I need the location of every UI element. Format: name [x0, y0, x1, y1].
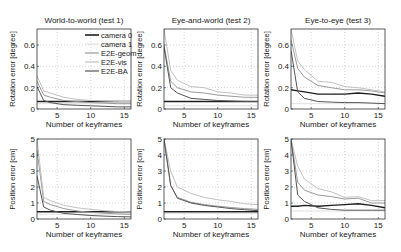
x-axis-label: Number of keyframes	[300, 230, 376, 239]
figure: 5101500.20.40.6Number of keyframesRotati…	[0, 0, 401, 252]
x-tick-label: 5	[182, 111, 187, 120]
y-tick-label: 2	[158, 183, 163, 192]
x-tick-label: 10	[213, 111, 222, 120]
subplot-3: 5101500.20.40.6Number of keyframesRotati…	[262, 16, 385, 129]
subplot-4: 51015012345Number of keyframesPosition e…	[8, 135, 131, 239]
x-tick-label: 5	[182, 221, 187, 230]
y-tick-label: 0	[31, 105, 36, 114]
y-tick-label: 0	[285, 105, 290, 114]
y-axis-label: Rotation error [degree]	[135, 31, 144, 106]
legend-label: E2E-BA	[101, 67, 128, 76]
x-tick-label: 15	[247, 221, 256, 230]
x-tick-label: 15	[247, 111, 256, 120]
y-tick-label: 4	[31, 151, 36, 160]
plot-area	[164, 139, 258, 219]
subplot-title: World-to-world (test 1)	[45, 16, 124, 25]
y-axis-label: Position error [cm]	[135, 149, 144, 210]
x-axis-label: Number of keyframes	[173, 120, 249, 129]
y-tick-label: 3	[285, 167, 290, 176]
y-tick-label: 5	[158, 135, 163, 144]
x-tick-label: 5	[55, 111, 60, 120]
x-tick-label: 5	[309, 111, 314, 120]
x-axis-label: Number of keyframes	[173, 230, 249, 239]
subplot-2: 5101500.20.40.6Number of keyframesRotati…	[135, 16, 258, 129]
subplot-1: 5101500.20.40.6Number of keyframesRotati…	[8, 16, 136, 129]
y-tick-label: 0.2	[24, 84, 36, 93]
x-axis-label: Number of keyframes	[300, 120, 376, 129]
legend-label: camera 1	[101, 40, 132, 49]
y-tick-label: 5	[31, 135, 36, 144]
x-axis-label: Number of keyframes	[46, 120, 122, 129]
y-tick-label: 0	[158, 105, 163, 114]
x-tick-label: 5	[309, 221, 314, 230]
x-tick-label: 15	[120, 221, 129, 230]
x-tick-label: 15	[120, 111, 129, 120]
y-tick-label: 4	[158, 151, 163, 160]
plot-area	[37, 139, 131, 219]
legend-label: E2E-geom	[101, 49, 136, 58]
y-tick-label: 0	[158, 215, 163, 224]
y-tick-label: 0.6	[278, 41, 290, 50]
x-tick-label: 10	[86, 111, 95, 120]
x-tick-label: 5	[55, 221, 60, 230]
y-axis-label: Position error [cm]	[8, 149, 17, 210]
y-tick-label: 0.2	[151, 84, 163, 93]
x-tick-label: 10	[340, 221, 349, 230]
subplot-6: 51015012345Number of keyframesPosition e…	[262, 135, 385, 239]
y-tick-label: 1	[158, 199, 163, 208]
y-tick-label: 2	[31, 183, 36, 192]
x-tick-label: 10	[86, 221, 95, 230]
y-tick-label: 0.4	[278, 62, 290, 71]
x-tick-label: 10	[340, 111, 349, 120]
y-tick-label: 0.6	[24, 41, 36, 50]
y-tick-label: 3	[158, 167, 163, 176]
y-tick-label: 4	[285, 151, 290, 160]
y-tick-label: 0.4	[24, 62, 36, 71]
y-tick-label: 5	[285, 135, 290, 144]
y-axis-label: Rotation error [degree]	[8, 31, 17, 106]
legend-label: E2E-vis	[101, 58, 127, 67]
y-axis-label: Rotation error [degree]	[262, 31, 271, 106]
y-tick-label: 1	[31, 199, 36, 208]
subplot-5: 51015012345Number of keyframesPosition e…	[135, 135, 258, 239]
y-tick-label: 0.2	[278, 84, 290, 93]
subplot-title: Eye-to-eye (test 3)	[305, 16, 371, 25]
y-tick-label: 2	[285, 183, 290, 192]
y-axis-label: Position error [cm]	[262, 149, 271, 210]
y-tick-label: 0	[31, 215, 36, 224]
x-tick-label: 15	[374, 221, 383, 230]
y-tick-label: 3	[31, 167, 36, 176]
subplot-title: Eye-and-world (test 2)	[172, 16, 251, 25]
y-tick-label: 0	[285, 215, 290, 224]
y-tick-label: 1	[285, 199, 290, 208]
legend-label: camera 0	[101, 31, 132, 40]
y-tick-label: 0.6	[151, 41, 163, 50]
x-tick-label: 15	[374, 111, 383, 120]
y-tick-label: 0.4	[151, 62, 163, 71]
x-tick-label: 10	[213, 221, 222, 230]
plot-area	[291, 29, 385, 109]
x-axis-label: Number of keyframes	[46, 230, 122, 239]
